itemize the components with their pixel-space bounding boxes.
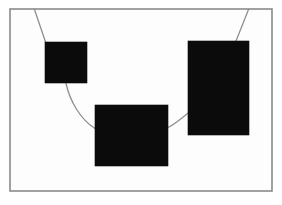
diagram-canvas xyxy=(0,0,282,205)
shape-right-rectangle xyxy=(188,41,249,135)
shape-center-rectangle xyxy=(95,105,168,166)
shape-upper-left-square xyxy=(45,42,87,83)
diagram-svg xyxy=(0,0,282,205)
